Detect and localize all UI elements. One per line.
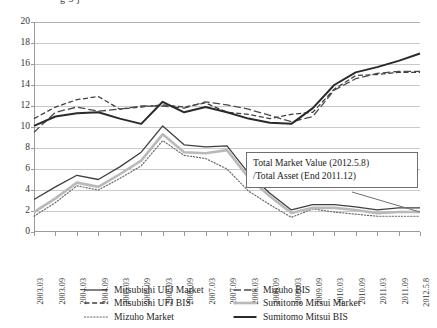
legend-label: Mitsubishi UFJ Market	[114, 285, 204, 295]
annotation-line-1: Total Market Value (2012.5.8)	[253, 157, 411, 170]
legend-swatch	[84, 298, 108, 308]
leader-line	[352, 192, 420, 212]
legend-item: Mitsubishi UFJ Market	[84, 283, 204, 297]
legend-item: Mitsubishi UFJ BIS	[84, 297, 204, 311]
legend-label: Sumitomo Mitsui BIS	[263, 312, 348, 322]
legend-label: Mizuho Market	[114, 312, 174, 322]
legend-swatch	[233, 285, 257, 295]
annotation-callout: Total Market Value (2012.5.8) /Total Ass…	[246, 152, 418, 188]
legend-item: Sumitomo Mitsui Market	[233, 297, 361, 311]
legend-swatch	[84, 285, 108, 295]
legend-label: Mitsubishi UFJ BIS	[114, 298, 191, 308]
legend-item: Sumitomo Mitsui BIS	[233, 310, 361, 324]
legend-swatch	[233, 298, 257, 308]
legend-item: Mizuho BIS	[233, 283, 361, 297]
legend-column-left: Mitsubishi UFJ MarketMitsubishi UFJ BISM…	[84, 283, 204, 324]
legend-swatch	[84, 312, 108, 322]
chart-figure: g 5 j 02468101214161820 2003.032003.0920…	[0, 0, 437, 328]
legend-item: Mizuho Market	[84, 310, 204, 324]
legend-label: Mizuho BIS	[263, 285, 310, 295]
legend-column-right: Mizuho BISSumitomo Mitsui MarketSumitomo…	[233, 283, 361, 324]
legend-swatch	[233, 312, 257, 322]
legend-label: Sumitomo Mitsui Market	[263, 298, 361, 308]
annotation-line-2: /Total Asset (End 2011.12)	[253, 170, 411, 183]
chart-legend: Mitsubishi UFJ MarketMitsubishi UFJ BISM…	[84, 283, 384, 325]
